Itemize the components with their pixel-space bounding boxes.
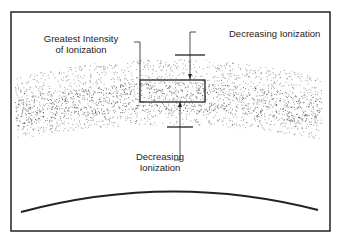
greatest-intensity-line1: Greatest Intensity (26, 33, 136, 44)
decreasing-ionization-bottom-label: Decreasing Ionization (124, 151, 196, 173)
decreasing-bottom-line1: Decreasing (124, 151, 196, 162)
earth-surface-curve (21, 191, 318, 212)
ionosphere-core (15, 60, 323, 131)
top-decreasing-marker (175, 32, 205, 80)
greatest-intensity-label: Greatest Intensity of Ionization (26, 33, 136, 55)
decreasing-ionization-top-label: Decreasing Ionization (229, 28, 320, 39)
greatest-intensity-line2: of Ionization (26, 44, 136, 55)
decreasing-bottom-line2: Ionization (124, 162, 196, 173)
